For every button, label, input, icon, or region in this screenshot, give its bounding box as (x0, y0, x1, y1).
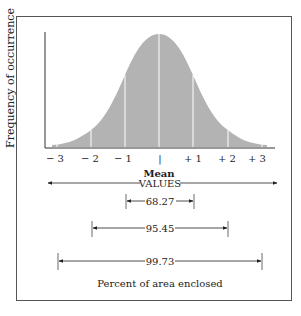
range-95-label: 95.45 (146, 223, 175, 234)
normal-curve-diagram: − 3 − 2 − 1 | + 1 + 2 + 3 Mean VALUES 68… (0, 0, 301, 316)
range-99-label: 99.73 (146, 256, 175, 267)
sigma-lines (57, 34, 262, 147)
tick-plus-3: + 3 (248, 153, 266, 164)
tick-mean: | (158, 153, 161, 165)
range-68-label: 68.27 (146, 196, 175, 207)
x-tick-labels: − 3 − 2 − 1 | + 1 + 2 + 3 (46, 153, 266, 165)
tick-minus-2: − 2 (81, 153, 99, 164)
values-label: VALUES (138, 178, 182, 189)
tick-minus-1: − 1 (114, 153, 132, 164)
tick-plus-2: + 2 (218, 153, 236, 164)
footer-caption: Percent of area enclosed (97, 278, 223, 289)
tick-plus-1: + 1 (184, 153, 202, 164)
tick-minus-3: − 3 (46, 153, 64, 164)
